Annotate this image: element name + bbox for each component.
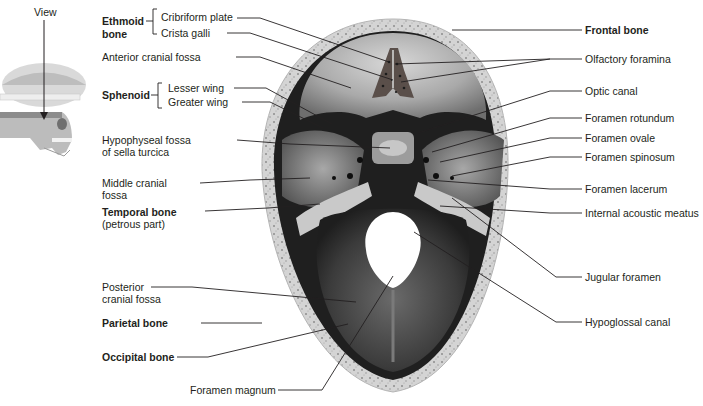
middle-cranial-fossa-label: Middle cranial (102, 177, 167, 190)
olfactory-foramina-label: Olfactory foramina (585, 53, 671, 66)
foramen-spinosum-label: Foramen spinosum (585, 151, 675, 164)
lesser-wing-label: Lesser wing (168, 82, 224, 95)
temporal-bone-label: Temporal bone (102, 206, 176, 219)
parietal-bone-label: Parietal bone (102, 317, 168, 330)
hypophyseal-fossa-label: Hypophyseal fossa (102, 134, 191, 147)
ethmoid-bone-label-2: bone (102, 28, 127, 41)
foramen-ovale-label: Foramen ovale (585, 132, 655, 145)
frontal-bone-label: Frontal bone (585, 24, 649, 37)
middle-cranial-fossa-label-2: fossa (102, 189, 127, 202)
hypoglossal-canal-label: Hypoglossal canal (585, 316, 670, 329)
posterior-cranial-fossa-label: Posterior (102, 281, 144, 294)
foramen-rotundum-label: Foramen rotundum (585, 112, 674, 125)
cranial-floor-diagram: View Ethmoid bone Cribriform plate Crist… (0, 0, 703, 406)
occipital-bone-label: Occipital bone (102, 351, 174, 364)
greater-wing-label: Greater wing (168, 96, 228, 109)
internal-acoustic-meatus-label: Internal acoustic meatus (585, 207, 699, 220)
foramen-lacerum-label: Foramen lacerum (585, 183, 667, 196)
inset-skull (0, 63, 86, 156)
jugular-foramen-label: Jugular foramen (585, 271, 661, 284)
temporal-bone-label-2: (petrous part) (102, 218, 165, 231)
anterior-cranial-fossa-label: Anterior cranial fossa (102, 51, 201, 64)
crista-galli-label: Crista galli (161, 27, 210, 40)
ethmoid-bone-label: Ethmoid (102, 15, 144, 28)
cribriform-plate-label: Cribriform plate (161, 11, 233, 24)
sphenoid-label: Sphenoid (102, 89, 150, 102)
hypophyseal-fossa-label-2: of sella turcica (102, 146, 169, 159)
optic-canal-label: Optic canal (585, 85, 638, 98)
view-label: View (34, 6, 57, 19)
foramen-magnum-label: Foramen magnum (190, 384, 276, 397)
posterior-cranial-fossa-label-2: cranial fossa (102, 293, 161, 306)
